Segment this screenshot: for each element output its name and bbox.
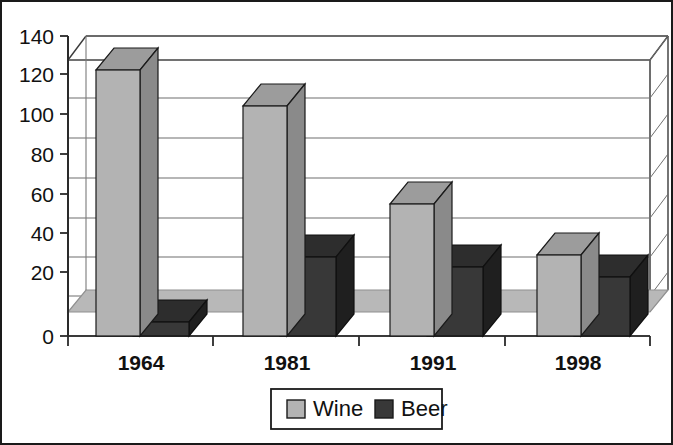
x-tick-label-1998: 1998 bbox=[555, 351, 602, 374]
bar-front-face bbox=[96, 70, 140, 336]
y-tick-label-0: 0 bbox=[42, 325, 54, 348]
x-tick-label-1964: 1964 bbox=[118, 351, 165, 374]
chart-legend: Wine Beer bbox=[271, 389, 447, 429]
y-tick-label-100: 100 bbox=[19, 103, 54, 126]
bar-side-face bbox=[140, 48, 158, 336]
bar-side-face bbox=[287, 84, 305, 336]
bar-1998-wine bbox=[537, 233, 599, 336]
x-tick-label-1981: 1981 bbox=[264, 351, 311, 374]
legend-swatch-wine-icon bbox=[287, 400, 305, 418]
bar-1964-wine bbox=[96, 48, 158, 336]
bar-1991-wine bbox=[390, 182, 452, 336]
bar-front-face bbox=[537, 255, 581, 336]
x-tick-label-1991: 1991 bbox=[410, 351, 457, 374]
y-tick-label-60: 60 bbox=[31, 183, 54, 206]
bar-1981-wine bbox=[243, 84, 305, 336]
legend-item-wine[interactable]: Wine bbox=[287, 396, 363, 421]
legend-label-wine: Wine bbox=[313, 396, 363, 421]
y-tick-label-140: 140 bbox=[19, 25, 54, 48]
y-tick-label-40: 40 bbox=[31, 222, 54, 245]
legend-label-beer: Beer bbox=[401, 396, 447, 421]
y-tick-label-120: 120 bbox=[19, 63, 54, 86]
legend-item-beer[interactable]: Beer bbox=[375, 396, 447, 421]
bar-chart-figure: 140 120 100 80 60 40 20 0 bbox=[0, 0, 673, 445]
y-tick-label-80: 80 bbox=[31, 143, 54, 166]
legend-swatch-beer-icon bbox=[375, 400, 393, 418]
chart-canvas: 140 120 100 80 60 40 20 0 bbox=[0, 0, 673, 445]
bar-front-face bbox=[243, 106, 287, 336]
y-tick-label-20: 20 bbox=[31, 261, 54, 284]
bar-front-face bbox=[390, 204, 434, 336]
bar-side-face bbox=[434, 182, 452, 336]
